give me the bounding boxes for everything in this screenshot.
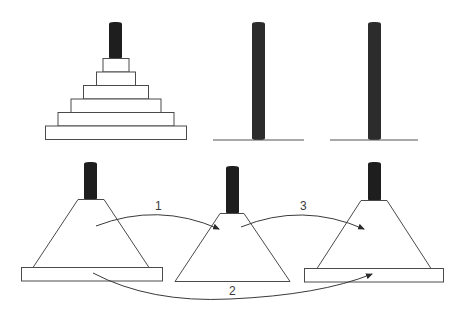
disk-5 [58,113,174,127]
top-peg-a [46,22,187,140]
stack-n-minus-1 [175,214,290,282]
peg-b-rod [226,166,239,214]
disk-4 [71,99,161,113]
stack-n-minus-1 [317,201,431,269]
largest-disk [22,268,163,282]
bottom-peg-a [22,162,163,281]
top-peg-b [213,22,304,140]
peg-c-rod [368,162,381,201]
disk-1 [103,59,129,73]
peg-b-rod [252,22,265,140]
move-2-label: 2 [229,284,236,298]
disk-2 [97,72,136,86]
largest-disk [305,269,444,283]
bottom-peg-b [175,166,290,282]
top-peg-c [330,22,418,140]
peg-c-rod [368,22,381,140]
stack-n-minus-1 [33,200,149,268]
tower-of-hanoi-diagram: 1 2 3 [0,0,461,312]
peg-a-rod [84,162,97,200]
bottom-peg-c [305,162,444,282]
move-3-label: 3 [300,199,307,213]
move-1-label: 1 [155,199,162,213]
peg-a-rod [109,22,122,59]
disk-3 [84,86,149,100]
disk-6 [46,126,187,140]
